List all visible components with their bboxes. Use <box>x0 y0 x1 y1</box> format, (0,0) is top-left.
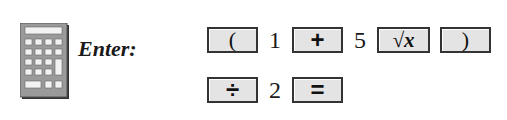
key-divide[interactable]: ÷ <box>207 77 258 103</box>
instruction-label: Enter: <box>78 36 137 62</box>
key-plus[interactable]: + <box>292 27 343 53</box>
keystroke-row-2: ÷ 2 = <box>207 77 343 103</box>
keystroke-row-1: ( 1 + 5 √x ) <box>207 27 491 53</box>
digit-5: 5 <box>343 27 377 54</box>
key-close-paren[interactable]: ) <box>440 27 491 53</box>
key-square-root[interactable]: √x <box>377 27 430 53</box>
calculator-icon <box>20 23 70 100</box>
key-equals[interactable]: = <box>292 77 343 103</box>
digit-2: 2 <box>258 77 292 104</box>
digit-1: 1 <box>258 27 292 54</box>
key-open-paren[interactable]: ( <box>207 27 258 53</box>
